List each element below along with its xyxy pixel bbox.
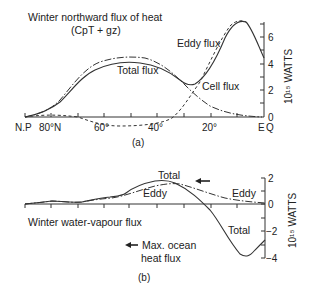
svg-text:4: 4 <box>268 59 274 70</box>
total-label-bottom: Total <box>228 224 250 236</box>
panel-a: Winter northward flux of heat (CpT + gz) <box>15 11 294 148</box>
y-tick-labels-a: 0 2 4 6 <box>268 32 274 123</box>
y-unit-label-a: 10¹⁵ WATTS <box>283 48 294 104</box>
svg-text:0: 0 <box>268 199 274 210</box>
panel-a-label: (a) <box>132 137 144 148</box>
svg-text:2: 2 <box>268 173 274 184</box>
svg-text:−4: −4 <box>266 253 278 264</box>
svg-text:80°N: 80°N <box>39 122 61 133</box>
svg-text:N.P: N.P <box>15 122 32 133</box>
max-ocean-label-line2: heat flux <box>141 252 181 264</box>
svg-text:E: E <box>258 122 265 133</box>
left-arrow-icon <box>195 178 210 184</box>
total-flux-label: Total flux <box>117 64 159 76</box>
panel-a-title: Winter northward flux of heat <box>28 11 162 23</box>
x-ticks-a <box>25 113 237 117</box>
y-tick-labels-b: 2 0 −2 −4 <box>266 173 278 264</box>
panel-a-subtitle: (CpT + gz) <box>71 24 121 36</box>
svg-text:2: 2 <box>268 85 274 96</box>
eddy-label-right: Eddy <box>232 187 257 199</box>
svg-text:6: 6 <box>268 32 274 43</box>
eddy-label-left: Eddy <box>143 187 168 199</box>
y-unit-label-b: 10¹⁵ WATTS <box>287 192 298 248</box>
y-ticks-a <box>260 24 264 103</box>
cell-flux-label: Cell flux <box>202 80 240 92</box>
max-ocean-label-line1: Max. ocean <box>142 239 196 251</box>
panel-b-title: Winter water-vapour flux <box>28 216 143 228</box>
svg-text:Q: Q <box>266 122 274 133</box>
svg-text:20°: 20° <box>202 122 217 133</box>
y-ticks-b <box>261 178 265 258</box>
x-tick-labels-a: N.P 80°N 60° 40° 20° E Q <box>15 122 274 133</box>
panel-b: 2 0 −2 −4 10¹⁵ WATTS Total Eddy Eddy Tot… <box>25 169 298 283</box>
svg-text:−2: −2 <box>266 226 278 237</box>
svg-text:40°: 40° <box>148 122 163 133</box>
left-arrow-icon <box>125 242 138 248</box>
panel-b-label: (b) <box>138 272 150 283</box>
heat-flux-figure: Winter northward flux of heat (CpT + gz) <box>0 0 313 298</box>
eddy-flux-label: Eddy flux <box>177 37 221 49</box>
total-label-top: Total <box>158 169 180 181</box>
